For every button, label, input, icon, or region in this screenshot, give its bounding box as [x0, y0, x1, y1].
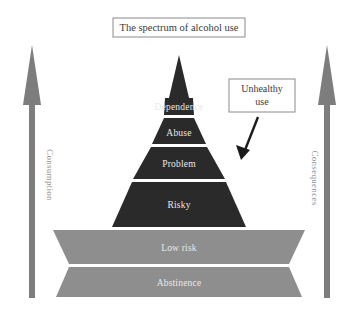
- consumption-arrow-head: [23, 45, 41, 105]
- consumption-axis-label: Consumption: [45, 149, 55, 201]
- pyramid-band-low-risk[interactable]: Low risk: [53, 230, 305, 264]
- pyramid-band-problem[interactable]: Problem: [133, 147, 225, 179]
- pyramid-band-abstinence[interactable]: Abstinence: [56, 267, 302, 297]
- diagram-canvas: Abstinence Low risk Risky Problem Abuse: [0, 0, 359, 322]
- consequences-arrow-shaft: [324, 100, 330, 298]
- band-label-dependence: Dependence: [155, 102, 204, 112]
- pyramid-band-abuse[interactable]: Abuse: [152, 118, 206, 144]
- consumption-arrow-icon: [23, 45, 41, 298]
- pointer-arrow-shaft: [245, 117, 258, 150]
- callout-pointer-arrow-icon: [236, 117, 258, 160]
- consequences-arrow-head: [318, 45, 336, 105]
- band-label-problem: Problem: [162, 159, 196, 169]
- consequences-axis-label: Consequences: [310, 150, 320, 205]
- unhealthy-use-callout: Unhealthy use: [229, 79, 295, 112]
- band-label-risky: Risky: [167, 200, 190, 210]
- pyramid-band-risky[interactable]: Risky: [112, 182, 246, 227]
- alcohol-use-spectrum-diagram: Abstinence Low risk Risky Problem Abuse: [0, 0, 359, 322]
- band-label-abuse: Abuse: [166, 128, 191, 138]
- band-label-abstinence: Abstinence: [157, 278, 202, 288]
- pyramid-band-dependence[interactable]: Dependence: [155, 55, 204, 115]
- callout-label-line2: use: [255, 96, 269, 107]
- consumption-arrow-shaft: [29, 100, 35, 298]
- band-label-low-risk: Low risk: [161, 243, 197, 253]
- title-box: The spectrum of alcohol use: [113, 18, 245, 37]
- callout-label-line1: Unhealthy: [241, 83, 283, 94]
- pointer-arrow-head: [236, 145, 250, 160]
- page-title: The spectrum of alcohol use: [120, 22, 239, 33]
